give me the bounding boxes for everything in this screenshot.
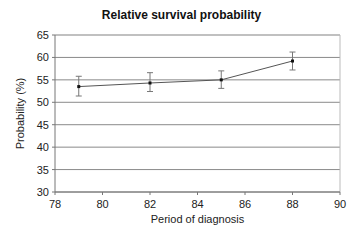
y-tick-label: 45 [37,119,49,131]
series-line [79,61,293,87]
x-tick-label: 78 [49,198,61,210]
y-tick-label: 35 [37,164,49,176]
x-tick-label: 84 [191,198,203,210]
x-axis-label: Period of diagnosis [151,213,245,225]
data-point-marker [77,85,80,88]
x-tick-label: 88 [286,198,298,210]
y-tick-label: 40 [37,141,49,153]
y-tick-label: 55 [37,74,49,86]
y-tick-label: 50 [37,96,49,108]
data-point-marker [220,78,223,81]
x-tick-label: 86 [239,198,251,210]
y-tick-label: 65 [37,29,49,41]
data-point-marker [291,60,294,63]
data-point-marker [149,81,152,84]
x-tick-label: 82 [144,198,156,210]
y-tick-label: 60 [37,51,49,63]
y-axis-label: Probability (%) [14,78,26,150]
y-tick-label: 30 [37,186,49,198]
line-chart: 303540455055606578808284868890Period of … [0,0,363,239]
x-tick-label: 90 [334,198,346,210]
x-tick-label: 80 [96,198,108,210]
